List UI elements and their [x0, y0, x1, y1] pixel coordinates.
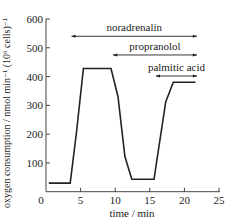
y-tick-label: 100 [27, 157, 44, 169]
x-tick-label: 0 [38, 194, 44, 206]
y-tick-label: 400 [27, 71, 44, 83]
x-tick-label: 5 [78, 194, 84, 206]
x-tick-label: 25 [214, 194, 226, 206]
y-tick-label: 600 [27, 13, 44, 25]
x-axis-label: time / min [109, 207, 155, 219]
x-tick-label: 15 [144, 194, 156, 206]
y-tick-label: 300 [27, 99, 44, 111]
y-tick-label: 200 [27, 128, 44, 140]
data-series [49, 69, 196, 184]
annotation-label: propranolol [129, 40, 180, 52]
annotation-label: palmitic acid [148, 61, 206, 73]
annotation-label: noradrenalin [106, 21, 162, 33]
y-axis-label: oxygen consumption / nmol min⁻¹ (10⁶ cel… [1, 18, 13, 208]
axes: 0510152025100200300400500600 [27, 13, 226, 206]
x-tick-label: 20 [179, 194, 191, 206]
chart: 0510152025100200300400500600 noradrenali… [0, 0, 236, 223]
data-line [49, 69, 196, 184]
x-tick-label: 10 [110, 194, 122, 206]
y-tick-label: 500 [27, 42, 44, 54]
